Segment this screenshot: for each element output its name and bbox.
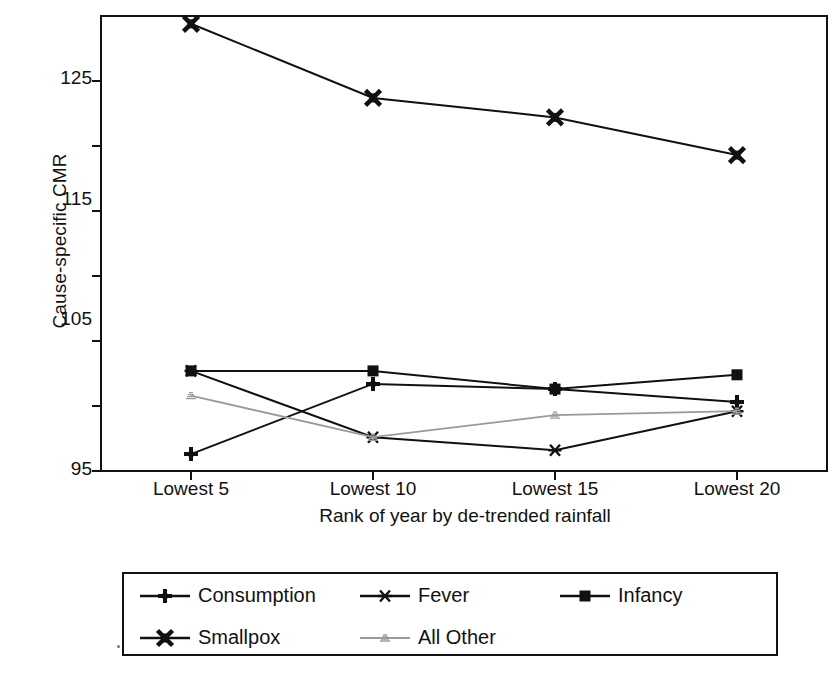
y-tick-105: 105 <box>32 309 92 328</box>
plus-marker-icon <box>138 584 192 606</box>
legend-item-fever[interactable]: Fever <box>358 584 558 607</box>
square-marker-icon <box>558 584 612 606</box>
x-tick-lowest-20: Lowest 20 <box>657 478 817 501</box>
stray-speck <box>117 645 120 648</box>
legend-label-fever: Fever <box>418 584 469 607</box>
y-tick-125: 125 <box>32 68 92 87</box>
legend-row-2: Smallpox All Other <box>124 616 776 658</box>
y-tick-115: 115 <box>32 189 92 208</box>
x-tick-lowest-15: Lowest 15 <box>475 478 635 501</box>
legend-item-infancy[interactable]: Infancy <box>558 584 682 607</box>
x-tick-lowest-10: Lowest 10 <box>293 478 453 501</box>
legend-label-all-other: All Other <box>418 626 496 649</box>
asterisk-marker-icon <box>358 584 412 606</box>
y-tick-95: 95 <box>32 459 92 478</box>
legend-label-smallpox: Smallpox <box>198 626 280 649</box>
cross-marker-icon <box>138 626 192 648</box>
chart-legend: Consumption Fever Infancy Smallpox All O… <box>122 572 778 656</box>
y-axis-tick-labels: 125 115 105 95 <box>0 0 92 680</box>
legend-label-infancy: Infancy <box>618 584 682 607</box>
legend-label-consumption: Consumption <box>198 584 316 607</box>
faint-marker-icon <box>358 626 412 648</box>
chart-figure: Cause-specific CMR 125 115 105 95 Lowest… <box>0 0 838 680</box>
legend-item-consumption[interactable]: Consumption <box>138 584 358 607</box>
legend-item-all-other[interactable]: All Other <box>358 626 496 649</box>
x-tick-lowest-5: Lowest 5 <box>111 478 271 501</box>
legend-item-smallpox[interactable]: Smallpox <box>138 626 358 649</box>
plot-area <box>100 15 828 472</box>
x-axis-title: Rank of year by de-trended rainfall <box>100 505 830 527</box>
legend-row-1: Consumption Fever Infancy <box>124 574 776 616</box>
